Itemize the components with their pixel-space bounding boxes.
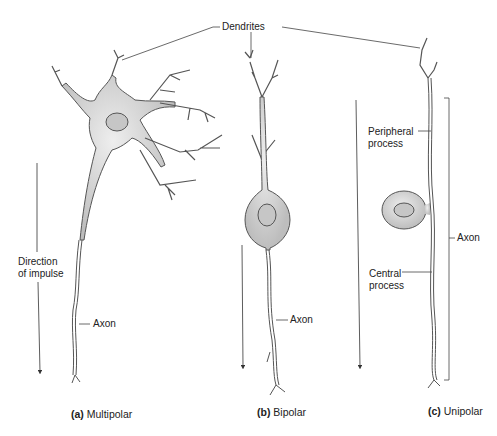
caption-multipolar-name: Multipolar bbox=[87, 408, 133, 420]
caption-unipolar: (c) Unipolar bbox=[428, 405, 483, 417]
caption-unipolar-letter: (c) bbox=[428, 405, 441, 417]
multipolar-axon-label: Axon bbox=[93, 318, 116, 330]
unipolar-dendrite-branches bbox=[420, 38, 437, 78]
caption-unipolar-name: Unipolar bbox=[444, 405, 483, 417]
unipolar-axon bbox=[428, 78, 440, 388]
multipolar-axon bbox=[72, 240, 82, 383]
dendrites-label: Dendrites bbox=[222, 21, 265, 33]
unipolar-neuron bbox=[382, 191, 430, 229]
peripheral-process-label-line1: Peripheral bbox=[368, 126, 414, 138]
direction-label-line1: Direction bbox=[18, 256, 57, 268]
neuron-types-diagram: Dendrites Direction of impulse Axon Axon… bbox=[0, 0, 497, 436]
central-process-label-line1: Central bbox=[369, 268, 401, 280]
caption-multipolar-letter: (a) bbox=[71, 408, 84, 420]
bipolar-axon-label: Axon bbox=[290, 314, 313, 326]
multipolar-neuron bbox=[62, 75, 175, 240]
dendrites-leader-lines bbox=[122, 27, 420, 60]
caption-bipolar-letter: (b) bbox=[257, 406, 270, 418]
direction-label-line2: of impulse bbox=[18, 268, 64, 280]
caption-bipolar-name: Bipolar bbox=[273, 406, 306, 418]
bipolar-neuron bbox=[245, 97, 290, 250]
caption-multipolar: (a) Multipolar bbox=[71, 408, 132, 420]
neuron-illustrations bbox=[0, 0, 497, 436]
caption-bipolar: (b) Bipolar bbox=[257, 406, 306, 418]
bipolar-direction-arrow bbox=[242, 245, 243, 367]
unipolar-direction-arrow bbox=[356, 100, 360, 367]
peripheral-process-label-line2: process bbox=[368, 138, 403, 150]
unipolar-axon-label: Axon bbox=[457, 232, 480, 244]
bipolar-axon bbox=[266, 250, 285, 395]
central-process-label-line2: process bbox=[369, 280, 404, 292]
